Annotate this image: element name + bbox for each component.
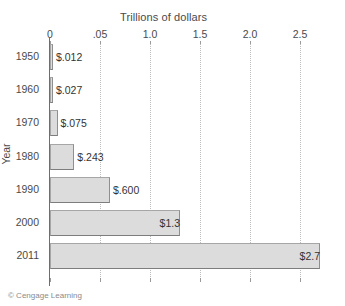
bar-value-label: $.012 <box>53 51 82 63</box>
bar-value-label: $.027 <box>53 84 82 96</box>
bar-row: $.243 <box>50 144 335 170</box>
bar-row: $.027 <box>50 77 335 103</box>
y-tick-label: 1950 <box>16 50 45 62</box>
bottom-tick-mark <box>100 278 101 282</box>
x-tick-label: 2.0 <box>243 28 258 40</box>
bar-value-label: $2.7 <box>50 250 325 262</box>
x-tick-label: 1.0 <box>143 28 158 40</box>
x-tick-label: 1.5 <box>193 28 208 40</box>
copyright-credit: © Cengage Learning <box>8 291 82 300</box>
y-tick-label: 1980 <box>16 150 45 162</box>
y-tick-label: 1960 <box>16 83 45 95</box>
x-tick-label: 0 <box>47 28 53 40</box>
bottom-tick-mark <box>50 278 51 282</box>
y-tick-label: 1970 <box>16 116 45 128</box>
y-tick-label: 2000 <box>16 216 45 228</box>
x-tick-label: 2.5 <box>293 28 308 40</box>
bar-row: $.600 <box>50 177 335 203</box>
bar-row: $2.7 <box>50 243 335 269</box>
bar-value-label: $.243 <box>74 151 103 163</box>
y-tick-label: 2011 <box>16 249 45 261</box>
bottom-tick-mark <box>300 278 301 282</box>
y-tick-label: 1990 <box>16 183 45 195</box>
bar-chart: Trillions of dollars Year 0.051.01.52.02… <box>0 0 345 306</box>
bar <box>50 110 58 136</box>
bar-row: $.075 <box>50 110 335 136</box>
bar-row: $1.3 <box>50 210 335 236</box>
bottom-tick-mark <box>250 278 251 282</box>
bar-value-label: $.600 <box>110 184 139 196</box>
bottom-tick-mark <box>200 278 201 282</box>
bar-row: $.012 <box>50 44 335 70</box>
bar-value-label: $.075 <box>58 117 87 129</box>
bar-value-label: $1.3 <box>50 217 185 229</box>
bar <box>50 177 110 203</box>
y-axis-ticks: 1950196019701980199020002011 <box>0 44 45 277</box>
bottom-tick-mark <box>150 278 151 282</box>
bar <box>50 144 74 170</box>
x-tick-label: .05 <box>93 28 108 40</box>
chart-title: Trillions of dollars <box>120 11 280 23</box>
plot-area: $.012$.027$.075$.243$.600$1.3$2.7 <box>50 44 335 277</box>
